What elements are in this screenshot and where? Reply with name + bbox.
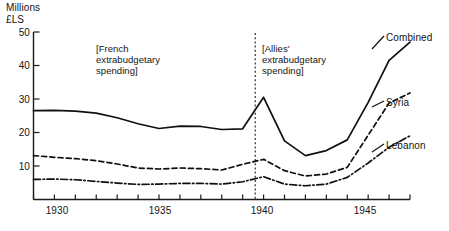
series-line-syria [34, 93, 411, 176]
series-line-lebanon [34, 136, 411, 186]
x-axis-ticks [34, 195, 411, 200]
leader-line-lebanon [372, 144, 384, 152]
axes-group [34, 32, 411, 200]
chart-plot-area [0, 0, 449, 231]
chart-figure: Millions £LS 50 40 30 20 10 1930 1935 19… [0, 0, 449, 231]
series-line-combined [34, 42, 411, 156]
y-axis-ticks [34, 32, 40, 166]
leader-line-combined [372, 36, 384, 49]
series-lines [34, 42, 411, 186]
series-leader-lines [372, 36, 384, 152]
leader-line-syria [372, 101, 384, 107]
